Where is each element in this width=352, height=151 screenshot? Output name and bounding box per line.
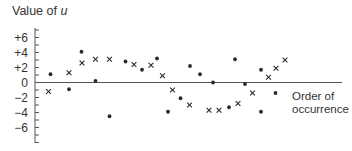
dot-marker: [166, 110, 170, 114]
dot-marker: [259, 68, 263, 72]
cross-marker: [80, 61, 85, 66]
x-axis-label: Order of occurrence: [292, 90, 349, 115]
y-tick-label: +6: [14, 31, 28, 45]
dot-marker: [94, 79, 98, 83]
dot-marker: [80, 50, 84, 54]
dot-marker: [188, 64, 192, 68]
cross-marker: [107, 57, 112, 62]
dot-marker: [108, 114, 112, 118]
dot-marker: [211, 81, 215, 85]
cross-marker: [170, 88, 175, 93]
dot-marker: [233, 57, 237, 61]
cross-marker: [132, 62, 137, 67]
cross-marker: [207, 108, 212, 113]
cross-marker: [236, 101, 241, 106]
data-points: [46, 50, 287, 118]
dot-marker: [179, 96, 183, 100]
title-variable: u: [60, 4, 67, 18]
dot-marker: [124, 60, 128, 64]
dot-marker: [227, 105, 231, 109]
cross-marker: [217, 108, 222, 113]
cross-marker: [93, 57, 98, 62]
chart-title: Value of u: [12, 4, 67, 18]
plot-area: +6+4+20−2−4−6: [0, 0, 352, 151]
dot-marker: [49, 72, 53, 76]
cross-marker: [67, 70, 72, 75]
dot-marker: [67, 87, 71, 91]
cross-marker: [266, 75, 271, 80]
y-tick-label: +4: [14, 46, 28, 60]
y-tick-labels: +6+4+20−2−4−6: [14, 31, 28, 135]
cross-marker: [283, 58, 288, 63]
dot-marker: [198, 72, 202, 76]
cross-marker: [274, 66, 279, 71]
x-axis-label-line-2: occurrence: [292, 103, 349, 116]
y-tick-label: −2: [14, 91, 28, 105]
y-tick-label: −6: [14, 121, 28, 135]
y-tick-label: 0: [21, 76, 28, 90]
title-prefix: Value of: [12, 4, 60, 18]
cross-marker: [187, 103, 192, 108]
scatter-chart: Value of u +6+4+20−2−4−6 Order of occurr…: [0, 0, 352, 151]
cross-marker: [46, 89, 51, 94]
dot-marker: [259, 110, 263, 114]
x-axis-label-line-1: Order of: [292, 90, 349, 103]
cross-marker: [149, 63, 154, 68]
dot-marker: [243, 82, 247, 86]
y-ticks: [35, 30, 39, 143]
cross-marker: [250, 91, 255, 96]
dot-marker: [274, 91, 278, 95]
y-tick-label: −4: [14, 106, 28, 120]
dot-marker: [155, 57, 159, 61]
cross-marker: [160, 73, 165, 78]
y-tick-label: +2: [14, 61, 28, 75]
dot-marker: [140, 68, 144, 72]
